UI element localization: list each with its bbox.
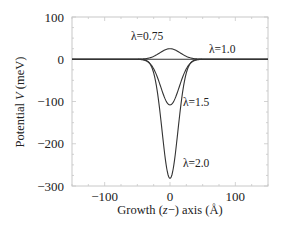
- y-tick-labels: 1000−100−200−300: [37, 10, 64, 194]
- y-tick-label: −300: [37, 179, 64, 194]
- curve-labels: λ=0.75λ=1.0λ=1.5λ=2.0: [131, 30, 236, 169]
- x-tick-label: 0: [167, 189, 174, 204]
- x-axis-title: Growth (z−) axis (Å): [117, 203, 222, 217]
- curve--2-0: [72, 59, 268, 178]
- curve-label: λ=2.0: [183, 157, 210, 169]
- y-tick-label: 100: [45, 10, 65, 25]
- x-tick-label: −100: [91, 189, 118, 204]
- x-tick-label: 100: [226, 189, 246, 204]
- curve--0-75: [72, 49, 268, 60]
- plot-frame: [72, 17, 268, 186]
- axis-ticks: [72, 17, 268, 186]
- curve--1-5: [72, 59, 268, 105]
- curves: [72, 49, 268, 179]
- y-tick-label: −100: [37, 94, 64, 109]
- chart: λ=0.75λ=1.0λ=1.5λ=2.0 1000−100−200−300 −…: [0, 0, 284, 235]
- y-axis-title: Potential V (meV): [13, 57, 27, 148]
- curve-label: λ=0.75: [131, 30, 163, 42]
- x-tick-labels: −1000100: [91, 189, 245, 204]
- curve-label: λ=1.0: [209, 43, 236, 55]
- y-tick-label: 0: [58, 52, 65, 67]
- y-tick-label: −200: [37, 136, 64, 151]
- curve-label: λ=1.5: [183, 96, 210, 108]
